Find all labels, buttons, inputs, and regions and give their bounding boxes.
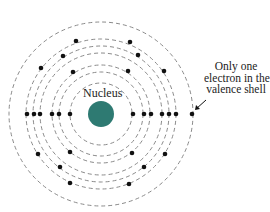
electron	[39, 66, 44, 71]
electron	[149, 112, 154, 117]
electron	[36, 152, 41, 157]
atom-shells-graphic	[0, 0, 270, 212]
electron	[130, 151, 135, 156]
electron	[131, 112, 136, 117]
annotation-line-1: Only one	[204, 61, 268, 73]
electron	[162, 69, 167, 74]
electron	[50, 112, 55, 117]
electron	[25, 112, 30, 117]
electron	[32, 112, 37, 117]
electron	[167, 112, 172, 117]
valence-annotation: Only one electron in the valence shell	[204, 61, 268, 96]
electron	[136, 53, 141, 58]
electron	[61, 54, 66, 59]
electron	[128, 40, 133, 45]
electron	[68, 181, 73, 186]
electron	[142, 165, 147, 170]
electron	[74, 39, 79, 44]
atom-diagram: Nucleus Only one electron in the valence…	[0, 0, 270, 212]
electron	[71, 70, 76, 75]
electron	[163, 152, 168, 157]
electron	[174, 112, 179, 117]
electron	[58, 165, 63, 170]
electron	[38, 112, 43, 117]
electron	[160, 112, 165, 117]
electron	[57, 112, 62, 117]
electron	[126, 69, 131, 74]
nucleus-label: Nucleus	[83, 86, 122, 101]
electron	[142, 112, 147, 117]
electron	[190, 112, 195, 117]
electron	[68, 150, 73, 155]
nucleus	[88, 101, 114, 127]
electron	[68, 112, 73, 117]
annotation-line-3: valence shell	[204, 84, 268, 96]
electron	[127, 182, 132, 187]
